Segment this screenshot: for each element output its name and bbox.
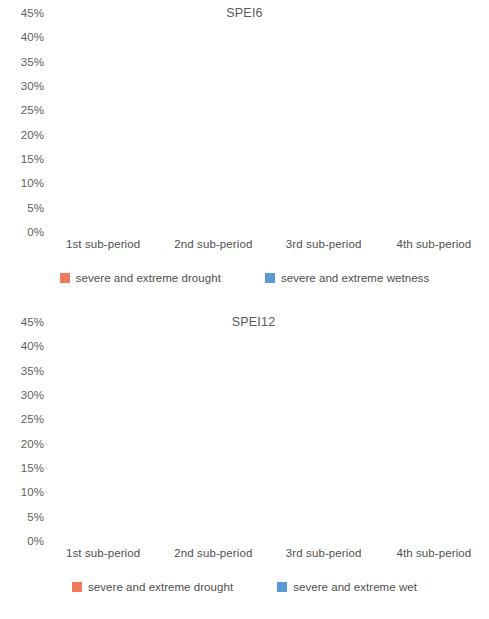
chart-spei12: SPEI12 45% 40% 35% 30% 25% 20% 15% 10% 5… [0,309,489,619]
chart-page: { "chart_data": [ { "type": "bar", "titl… [0,0,489,619]
legend-swatch-icon [72,582,82,592]
legend-swatch-icon [265,273,275,283]
y-tick-label: 25% [21,104,44,116]
chart-spei6: SPEI6 45% 40% 35% 30% 25% 20% 15% 10% 5%… [0,0,489,309]
y-tick-label: 45% [21,7,44,19]
legend-swatch-icon [60,273,70,283]
y-tick-label: 35% [21,56,44,68]
y-tick-label: 5% [27,202,44,214]
bar-group [269,13,379,232]
plot-area-spei12 [48,322,489,541]
bar-group [269,322,379,541]
legend-spei12: severe and extreme drought severe and ex… [0,581,489,593]
y-tick-label: 0% [27,226,44,238]
bar-group [48,322,158,541]
y-tick-label: 5% [27,511,44,523]
bar-group [379,13,489,232]
y-tick-label: 35% [21,365,44,377]
legend-item-wetness: severe and extreme wet [277,581,417,593]
y-tick-label: 20% [21,129,44,141]
y-tick-label: 40% [21,31,44,43]
legend-label: severe and extreme drought [76,272,221,284]
legend-item-drought: severe and extreme drought [60,272,221,284]
y-axis-spei6: 45% 40% 35% 30% 25% 20% 15% 10% 5% 0% [0,13,44,232]
bar-group [158,322,268,541]
x-axis-labels-spei12: 1st sub-period 2nd sub-period 3rd sub-pe… [48,547,489,559]
bar-group [48,13,158,232]
x-tick-label: 3rd sub-period [269,238,379,250]
y-tick-label: 15% [21,153,44,165]
y-tick-label: 10% [21,486,44,498]
x-axis-labels-spei6: 1st sub-period 2nd sub-period 3rd sub-pe… [48,238,489,250]
y-tick-label: 45% [21,316,44,328]
x-tick-label: 1st sub-period [48,547,158,559]
y-tick-label: 30% [21,80,44,92]
x-tick-label: 4th sub-period [379,238,489,250]
legend-item-wetness: severe and extreme wetness [265,272,429,284]
legend-label: severe and extreme wet [293,581,417,593]
bar-group [379,322,489,541]
y-tick-label: 0% [27,535,44,547]
y-tick-label: 40% [21,340,44,352]
y-tick-label: 10% [21,177,44,189]
bar-group [158,13,268,232]
x-tick-label: 1st sub-period [48,238,158,250]
y-tick-label: 20% [21,438,44,450]
legend-spei6: severe and extreme drought severe and ex… [0,272,489,284]
y-tick-label: 30% [21,389,44,401]
y-axis-spei12: 45% 40% 35% 30% 25% 20% 15% 10% 5% 0% [0,322,44,541]
legend-item-drought: severe and extreme drought [72,581,233,593]
plot-area-spei6 [48,13,489,232]
y-tick-label: 15% [21,462,44,474]
legend-label: severe and extreme wetness [281,272,429,284]
x-tick-label: 2nd sub-period [158,547,268,559]
legend-swatch-icon [277,582,287,592]
x-tick-label: 3rd sub-period [269,547,379,559]
x-tick-label: 4th sub-period [379,547,489,559]
y-tick-label: 25% [21,413,44,425]
legend-label: severe and extreme drought [88,581,233,593]
x-tick-label: 2nd sub-period [158,238,268,250]
